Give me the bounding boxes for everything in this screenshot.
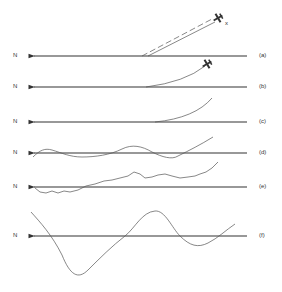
row-tag-c: (c) [259,118,266,124]
path-a-solid [148,22,215,56]
row-tag-e: (e) [259,183,266,189]
north-label-a: N [13,52,17,58]
row-tag-d: (d) [259,149,266,155]
north-label-b: N [13,83,17,89]
path-e-jagged [35,162,218,193]
flight-path-diagram: x [0,0,282,292]
path-a-dashed [142,19,212,56]
target-marker: x [225,20,228,26]
path-f-oscillation [31,211,235,275]
reference-lines [34,56,247,236]
row-tag-b: (b) [259,83,266,89]
path-c-curve [155,98,212,122]
north-label-c: N [13,118,17,124]
row-tag-f: (f) [259,232,265,238]
row-tag-a: (a) [259,52,266,58]
aircraft-icons [200,11,225,71]
north-label-f: N [13,232,17,238]
aircraft-icon-b [200,57,214,71]
path-d-oscillation [33,137,213,158]
path-b-curve [146,66,205,87]
north-label-d: N [13,149,17,155]
north-label-e: N [13,183,17,189]
